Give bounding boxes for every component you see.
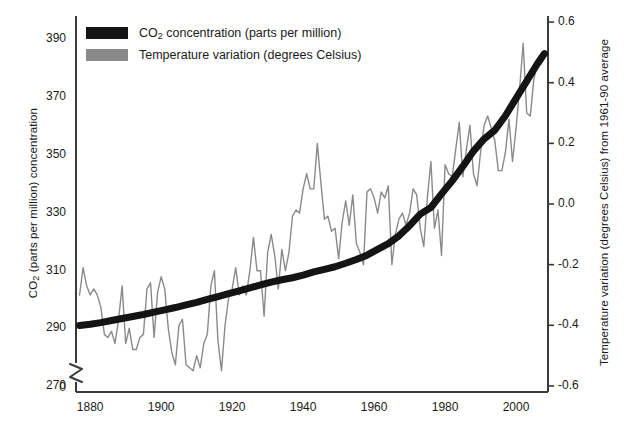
temperature-line bbox=[80, 43, 545, 370]
legend-label-temperature: Temperature variation (degrees Celsius) bbox=[139, 48, 361, 62]
y-tick-label-left-390: 390 bbox=[26, 31, 66, 45]
y-tick-label-right--0.2: -0.2 bbox=[558, 257, 598, 271]
x-tick-label-1920: 1920 bbox=[202, 400, 262, 414]
y-tick-label-right--0.4: -0.4 bbox=[558, 317, 598, 331]
x-tick-label-2000: 2000 bbox=[486, 400, 546, 414]
y-tick-label-left-290: 290 bbox=[26, 320, 66, 334]
chart-legend: CO2 concentration (parts per million) Te… bbox=[86, 22, 361, 66]
legend-swatch-co2 bbox=[86, 27, 128, 39]
legend-label-co2: CO2 concentration (parts per million) bbox=[139, 26, 341, 41]
y-tick-label-left-0: 0 bbox=[26, 380, 66, 394]
legend-item-temperature: Temperature variation (degrees Celsius) bbox=[86, 44, 361, 66]
y-tick-label-right-0.2: 0.2 bbox=[558, 135, 598, 149]
y-tick-label-right-0.4: 0.4 bbox=[558, 75, 598, 89]
right-axis-title: Temperature variation (degrees Celsius) … bbox=[598, 46, 610, 366]
y-tick-label-left-350: 350 bbox=[26, 147, 66, 161]
legend-item-co2: CO2 concentration (parts per million) bbox=[86, 22, 361, 44]
legend-swatch-temperature bbox=[86, 49, 128, 61]
x-tick-label-1940: 1940 bbox=[273, 400, 333, 414]
x-tick-label-1900: 1900 bbox=[131, 400, 191, 414]
y-tick-label-right-0.6: 0.6 bbox=[558, 14, 598, 28]
y-tick-label-left-370: 370 bbox=[26, 89, 66, 103]
y-tick-label-left-310: 310 bbox=[26, 263, 66, 277]
y-tick-label-left-330: 330 bbox=[26, 205, 66, 219]
temperature-series bbox=[80, 43, 545, 370]
y-tick-label-right-0.0: 0.0 bbox=[558, 196, 598, 210]
chart-figure: CO2 concentration (parts per million) Te… bbox=[0, 0, 628, 434]
y-tick-label-right--0.6: -0.6 bbox=[558, 378, 598, 392]
x-tick-label-1960: 1960 bbox=[344, 400, 404, 414]
x-tick-label-1880: 1880 bbox=[60, 400, 120, 414]
x-tick-label-1980: 1980 bbox=[415, 400, 475, 414]
